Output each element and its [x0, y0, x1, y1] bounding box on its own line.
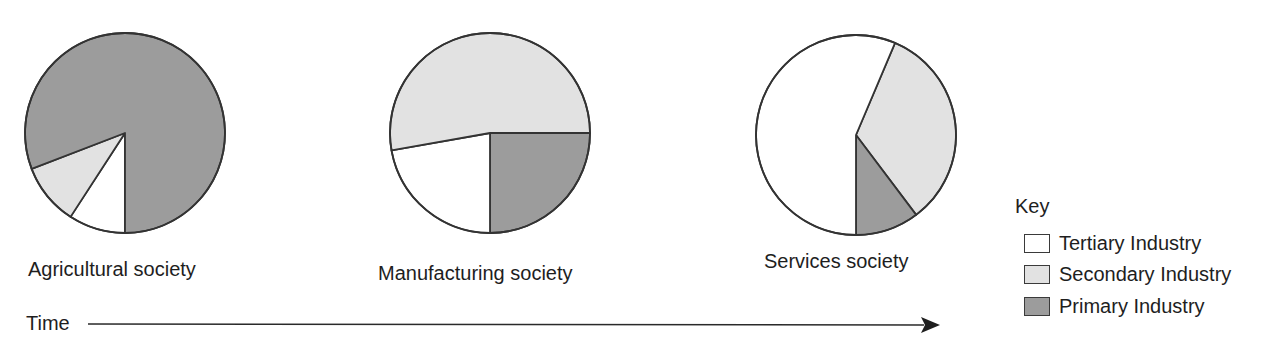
- time-arrow-line: [88, 324, 924, 325]
- secondary-swatch-icon: [1024, 265, 1050, 284]
- legend-label-secondary: Secondary Industry: [1059, 264, 1231, 284]
- pie-label-manufacturing: Manufacturing society: [378, 263, 573, 283]
- legend-label-tertiary: Tertiary Industry: [1059, 233, 1201, 253]
- pie-agricultural-society: [25, 33, 225, 233]
- primary-swatch-icon: [1024, 297, 1050, 316]
- time-arrow: [88, 317, 940, 333]
- legend-label-primary: Primary Industry: [1059, 296, 1205, 316]
- legend-item-tertiary: Tertiary Industry: [1024, 233, 1201, 253]
- pie-label-agricultural: Agricultural society: [28, 259, 196, 279]
- legend-title: Key: [1015, 196, 1049, 216]
- industry-structure-diagram: Agricultural society Manufacturing socie…: [0, 0, 1266, 357]
- legend-item-secondary: Secondary Industry: [1024, 264, 1231, 284]
- time-axis-label: Time: [26, 313, 70, 333]
- tertiary-swatch-icon: [1024, 234, 1050, 253]
- pie-slice-primary: [490, 133, 590, 233]
- pie-label-services: Services society: [764, 251, 909, 271]
- pie-services-society: [756, 35, 956, 235]
- pie-slice-secondary: [390, 33, 590, 150]
- pie-manufacturing-society: [390, 33, 590, 233]
- legend-item-primary: Primary Industry: [1024, 296, 1205, 316]
